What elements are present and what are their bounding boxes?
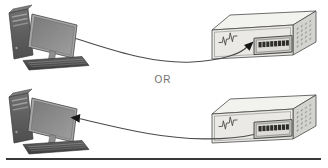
- cable-computer-to-switch: [76, 39, 248, 63]
- or-label: OR: [143, 74, 183, 86]
- cable-switch-to-computer: [80, 119, 254, 139]
- network-cabling-diagram: OR: [0, 0, 328, 168]
- arrowhead-into-switch-port: [244, 42, 254, 51]
- arrowhead-into-computer: [71, 114, 81, 123]
- bottom-divider: [6, 158, 321, 160]
